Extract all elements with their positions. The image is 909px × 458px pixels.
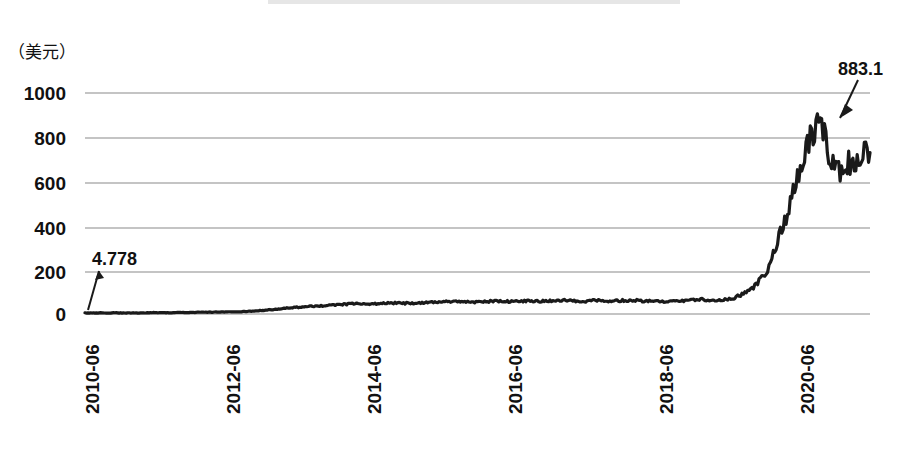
gridlines bbox=[85, 93, 870, 314]
peak-callout-arrowhead bbox=[840, 104, 853, 118]
data-series-line bbox=[85, 114, 870, 313]
plot-canvas bbox=[0, 0, 909, 458]
chart-figure: （美元） 1000 800 600 400 200 0 2010-06 2012… bbox=[0, 0, 909, 458]
callout-arrows bbox=[88, 80, 858, 310]
